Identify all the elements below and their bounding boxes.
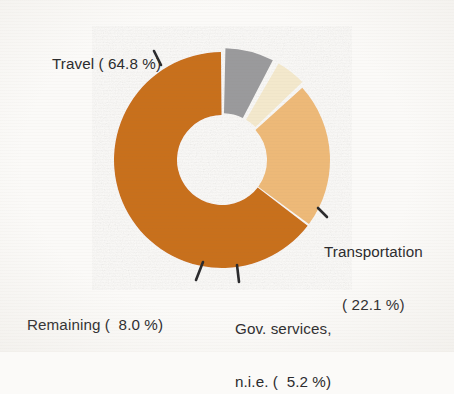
slice-label-remaining-text: Remaining ( 8.0 %) [27, 316, 163, 334]
slice-label-gov-services: Gov. services, n.i.e. ( 5.2 %) [235, 285, 331, 394]
slice-label-travel-text: Travel ( 64.8 %) [52, 55, 161, 73]
slice-label-transportation-line2: ( 22.1 %) [324, 296, 423, 314]
slice-label-transportation: Transportation ( 22.1 %) [324, 208, 423, 348]
leader-tick-gov-services [237, 265, 239, 282]
slice-label-gov-services-line1: Gov. services, [235, 320, 331, 338]
slice-label-transportation-line1: Transportation [324, 243, 423, 261]
slice-label-gov-services-line2: n.i.e. ( 5.2 %) [235, 373, 331, 391]
slice-label-travel: Travel ( 64.8 %) [52, 20, 161, 108]
slice-label-remaining: Remaining ( 8.0 %) [27, 281, 163, 369]
